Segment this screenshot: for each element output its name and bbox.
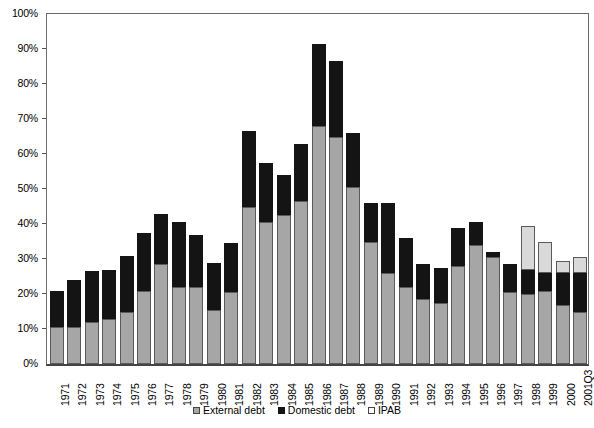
bar-segment-external-debt <box>364 242 378 365</box>
bar-segment-domestic-debt <box>277 175 291 215</box>
bar-2001Q3[interactable] <box>573 257 587 364</box>
bar-segment-external-debt <box>50 327 64 364</box>
bar-segment-domestic-debt <box>102 270 116 319</box>
x-tick-label-2001Q3: 2001Q3 <box>583 370 594 406</box>
bar-1998[interactable] <box>521 226 535 364</box>
bar-segment-domestic-debt <box>556 273 570 305</box>
gray-square-icon <box>193 407 200 414</box>
bar-1992[interactable] <box>416 264 430 364</box>
bar-segment-external-debt <box>172 287 186 364</box>
bar-1976[interactable] <box>137 233 151 364</box>
bar-1981[interactable] <box>224 243 238 364</box>
bar-segment-domestic-debt <box>172 222 186 287</box>
bar-segment-external-debt <box>242 207 256 365</box>
x-tick-label-1993: 1993 <box>444 383 455 406</box>
bar-1999[interactable] <box>538 242 552 365</box>
bar-1994[interactable] <box>451 228 465 365</box>
y-axis: 0%10%20%30%40%50%60%70%80%90%100% <box>0 0 42 372</box>
y-tick-label: 100% <box>12 8 38 18</box>
bar-1991[interactable] <box>399 238 413 364</box>
bar-segment-domestic-debt <box>521 270 535 295</box>
bar-segment-external-debt <box>85 322 99 364</box>
x-tick-label-1984: 1984 <box>287 383 298 406</box>
x-tick-label-1991: 1991 <box>409 383 420 406</box>
bar-1975[interactable] <box>120 256 134 365</box>
legend-entry-domestic-debt[interactable]: Domestic debt <box>278 404 355 416</box>
bar-segment-domestic-debt <box>207 263 221 310</box>
bar-segment-domestic-debt <box>503 264 517 292</box>
bar-1982[interactable] <box>242 131 256 364</box>
y-tick-label: 90% <box>18 43 38 53</box>
bar-2000[interactable] <box>556 261 570 364</box>
bar-1979[interactable] <box>189 235 203 365</box>
bar-segment-external-debt <box>381 273 395 364</box>
bar-1997[interactable] <box>503 264 517 364</box>
bar-segment-external-debt <box>102 319 116 365</box>
bar-segment-external-debt <box>521 294 535 364</box>
bar-segment-domestic-debt <box>67 280 81 327</box>
bar-segment-external-debt <box>294 201 308 364</box>
bar-segment-domestic-debt <box>416 264 430 299</box>
x-tick-label-1972: 1972 <box>77 383 88 406</box>
x-tick-label-1999: 1999 <box>548 383 559 406</box>
bar-segment-domestic-debt <box>399 238 413 287</box>
legend-label: External debt <box>203 404 265 416</box>
bar-segment-external-debt <box>469 245 483 364</box>
x-tick-label-1982: 1982 <box>252 383 263 406</box>
legend-entry-ipab[interactable]: IPAB <box>368 404 401 416</box>
x-tick-label-1978: 1978 <box>182 383 193 406</box>
bar-1990[interactable] <box>381 203 395 364</box>
bar-1980[interactable] <box>207 263 221 365</box>
x-tick-label-1988: 1988 <box>356 383 367 406</box>
bar-segment-external-debt <box>312 126 326 364</box>
bar-1995[interactable] <box>469 222 483 364</box>
x-tick-label-1981: 1981 <box>234 383 245 406</box>
bar-segment-domestic-debt <box>486 252 500 257</box>
bar-1988[interactable] <box>346 133 360 364</box>
bar-1987[interactable] <box>329 61 343 364</box>
bar-segment-external-debt <box>573 312 587 365</box>
chart-legend: External debtDomestic debtIPAB <box>0 404 594 416</box>
bar-segment-domestic-debt <box>364 203 378 242</box>
stacked-bar-chart: 0%10%20%30%40%50%60%70%80%90%100% 197119… <box>0 0 594 428</box>
bar-segment-domestic-debt <box>312 44 326 126</box>
bar-1978[interactable] <box>172 222 186 364</box>
bar-segment-domestic-debt <box>451 228 465 267</box>
bar-segment-ipab <box>538 242 552 274</box>
bar-1983[interactable] <box>259 163 273 364</box>
x-tick-label-1977: 1977 <box>164 383 175 406</box>
bar-1974[interactable] <box>102 270 116 365</box>
bar-1985[interactable] <box>294 144 308 365</box>
y-tick-label: 20% <box>18 288 38 298</box>
bar-segment-domestic-debt <box>224 243 238 292</box>
bar-1996[interactable] <box>486 252 500 364</box>
bar-segment-external-debt <box>189 287 203 364</box>
bar-1972[interactable] <box>67 280 81 364</box>
bar-segment-external-debt <box>556 305 570 365</box>
bar-segment-domestic-debt <box>329 61 343 136</box>
x-tick-label-1995: 1995 <box>479 383 490 406</box>
legend-entry-external-debt[interactable]: External debt <box>193 404 265 416</box>
bar-segment-domestic-debt <box>538 273 552 291</box>
bar-1986[interactable] <box>312 44 326 364</box>
bar-segment-external-debt <box>329 137 343 365</box>
bar-segment-external-debt <box>67 327 81 364</box>
bar-segment-external-debt <box>154 264 168 364</box>
x-tick-label-1998: 1998 <box>531 383 542 406</box>
y-tick-label: 50% <box>18 183 38 193</box>
bar-1984[interactable] <box>277 175 291 364</box>
bar-segment-external-debt <box>538 291 552 365</box>
x-tick-label-1997: 1997 <box>513 383 524 406</box>
bar-1971[interactable] <box>50 291 64 365</box>
bar-1973[interactable] <box>85 271 99 364</box>
bar-segment-domestic-debt <box>189 235 203 288</box>
bar-segment-ipab <box>573 257 587 273</box>
bar-segment-external-debt <box>503 292 517 364</box>
bar-1977[interactable] <box>154 214 168 365</box>
bar-1989[interactable] <box>364 203 378 364</box>
bar-1993[interactable] <box>434 268 448 364</box>
x-tick-label-1990: 1990 <box>391 383 402 406</box>
bar-segment-domestic-debt <box>259 163 273 223</box>
bar-segment-ipab <box>556 261 570 273</box>
x-tick-label-1996: 1996 <box>496 383 507 406</box>
